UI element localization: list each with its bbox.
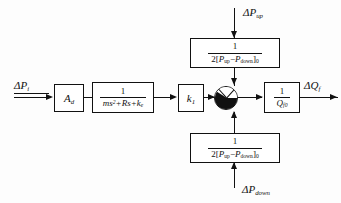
signal-left-subscript: i <box>27 85 29 92</box>
top-feedback-numerator: 1 <box>230 42 241 51</box>
block-gain-ad[interactable]: Ad <box>54 84 84 112</box>
summing-junction[interactable] <box>214 86 238 110</box>
arrowhead-summer-top-input <box>231 78 237 85</box>
block-gain-k1[interactable]: k1 <box>178 84 204 112</box>
block-diagram-canvas: ΔPi Ad 1 ms2+Rs+ke k1 <box>0 0 341 203</box>
arrowhead-summer-bottom-input <box>231 111 237 118</box>
block-bottom-feedback[interactable]: 1 2[Pup−Pdown]0 <box>190 133 280 163</box>
signal-label-input-left: ΔPi <box>14 79 29 91</box>
output-gain-denominator: Qf0 <box>274 99 291 108</box>
so-den-k-subscript: e <box>141 102 143 108</box>
block-output-gain[interactable]: 1 Qf0 <box>264 82 300 113</box>
fraction-top-feedback: 1 2[Pup−Pdown]0 <box>208 42 261 64</box>
signal-right-delta-q: ΔQ <box>304 79 318 91</box>
bottom-fb-nominal-subscript: 0 <box>256 153 259 159</box>
fraction-second-order: 1 ms2+Rs+ke <box>100 87 146 109</box>
signal-bottom-subscript: down <box>255 189 270 196</box>
signal-left-delta-p: ΔP <box>14 79 27 91</box>
signal-bottom-delta-p: ΔP <box>242 183 255 195</box>
second-order-denominator: ms2+Rs+ke <box>100 99 146 108</box>
bottom-feedback-numerator: 1 <box>230 137 241 146</box>
top-feedback-denominator: 2[Pup−Pdown]0 <box>208 55 261 64</box>
block-gain-k1-label: k1 <box>187 92 195 104</box>
top-fb-nominal-subscript: 0 <box>256 58 259 64</box>
arrowhead-output-right <box>330 94 337 100</box>
signal-label-input-top: ΔPup <box>243 6 263 18</box>
arrowhead-input-left <box>46 94 53 100</box>
wire-input-left <box>14 97 48 98</box>
bottom-fb-two-bracket: 2[ <box>211 149 219 159</box>
signal-top-delta-p: ΔP <box>243 6 256 18</box>
second-order-numerator: 1 <box>118 87 129 96</box>
output-gain-numerator: 1 <box>277 87 288 96</box>
block-top-feedback[interactable]: 1 2[Pup−Pdown]0 <box>190 38 280 68</box>
gain-k1-subscript: 1 <box>192 98 195 105</box>
bottom-feedback-denominator: 2[Pup−Pdown]0 <box>208 150 261 159</box>
bottom-fb-p-down-subscript: down <box>240 153 252 159</box>
signal-label-output-right: ΔQf <box>304 79 320 91</box>
gain-ad-subscript: d <box>71 98 74 105</box>
arrowhead-top-feedback-input <box>231 31 237 38</box>
underline-input-left <box>14 93 49 94</box>
arrowhead-output-gain-input <box>256 94 263 100</box>
out-den-Q-subscript: f0 <box>283 102 287 108</box>
arrowhead-k1-input <box>170 94 177 100</box>
block-second-order-transfer-function[interactable]: 1 ms2+Rs+ke <box>92 82 154 113</box>
fraction-bottom-feedback: 1 2[Pup−Pdown]0 <box>208 137 261 159</box>
gain-ad-symbol: A <box>64 92 71 104</box>
signal-top-subscript: up <box>256 12 263 19</box>
block-gain-ad-label: Ad <box>64 92 74 104</box>
top-fb-two-bracket: 2[ <box>211 54 219 64</box>
signal-label-input-bottom: ΔPdown <box>242 183 270 195</box>
arrowhead-bottom-feedback-input <box>231 162 237 169</box>
fraction-output-gain: 1 Qf0 <box>274 87 291 109</box>
signal-right-subscript: f <box>318 85 320 92</box>
top-fb-p-down-subscript: down <box>240 58 252 64</box>
